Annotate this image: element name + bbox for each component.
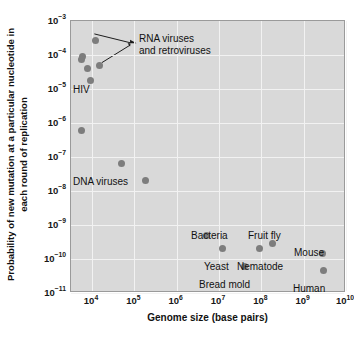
y-axis-title-text: Probability of new mutation at a particu… (5, 19, 30, 291)
y-axis-tick-label: 10−10 (32, 253, 66, 264)
data-point (118, 160, 125, 167)
x-axis-tick-label: 106 (168, 295, 182, 306)
y-axis-tick-label: 10−7 (32, 151, 66, 162)
annotation-fruit-fly: Fruit fly (248, 230, 281, 242)
y-axis-tick-label: 10−4 (32, 49, 66, 60)
data-point (142, 177, 149, 184)
gridline-vertical (346, 21, 347, 291)
annotation-bread-mold: Bread mold (199, 279, 250, 291)
annotation-rna-viruses: RNA viruses and retroviruses (139, 33, 211, 56)
annotation-hiv: HIV (73, 84, 90, 96)
data-point (87, 77, 94, 84)
data-point (320, 267, 327, 274)
data-point (92, 37, 99, 44)
annotation-human: Human (293, 283, 325, 295)
y-axis-tick-label: 10−6 (32, 117, 66, 128)
data-point (78, 56, 85, 63)
y-axis-tick-label: 10−5 (32, 83, 66, 94)
y-axis-tick-label: 10−11 (32, 287, 66, 298)
x-axis-tick-label: 1010 (336, 295, 354, 306)
y-axis-tick-labels: 10−310−410−510−610−710−810−910−1010−11 (28, 0, 66, 341)
annotation-bacteria: Bacteria (191, 230, 228, 242)
data-point (96, 62, 103, 69)
gridline-vertical (134, 21, 135, 291)
x-axis-tick-label: 104 (84, 295, 98, 306)
annotation-mouse: Mouse (294, 247, 324, 259)
annotation-yeast: Yeast (204, 261, 229, 273)
annotation-dna-viruses: DNA viruses (73, 176, 128, 188)
y-axis-tick-label: 10−8 (32, 185, 66, 196)
data-point (84, 65, 91, 72)
gridline-vertical (92, 21, 93, 291)
x-axis-title: Genome size (base pairs) (70, 312, 345, 323)
y-axis-tick-label: 10−3 (32, 15, 66, 26)
data-point (219, 245, 226, 252)
x-axis-tick-label: 107 (211, 295, 225, 306)
annotation-nematode: Nematode (237, 261, 283, 273)
x-axis-tick-label: 109 (295, 295, 309, 306)
x-axis-tick-label: 105 (126, 295, 140, 306)
data-point (256, 245, 263, 252)
x-axis-tick-label: 108 (253, 295, 267, 306)
y-axis-tick-label: 10−9 (32, 219, 66, 230)
gridline-vertical (177, 21, 178, 291)
data-point (78, 127, 85, 134)
plot-area: RNA viruses and retrovirusesHIVDNA virus… (70, 20, 345, 292)
